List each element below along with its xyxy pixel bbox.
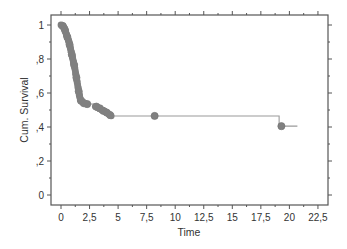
censored-marker <box>108 113 115 120</box>
censored-marker <box>278 123 285 130</box>
y-tick-label: ,4 <box>36 122 45 133</box>
x-axis-label: Time <box>178 226 201 238</box>
x-tick-label: 22,5 <box>308 212 328 223</box>
x-tick-label: 15 <box>227 212 239 223</box>
y-tick-label: 1 <box>38 20 44 31</box>
x-tick-label: 10 <box>170 212 182 223</box>
y-axis-label: Cum. Survival <box>18 77 30 142</box>
y-tick-label: 0 <box>38 190 44 201</box>
x-tick-label: 2,5 <box>83 212 97 223</box>
censored-marker <box>151 112 158 119</box>
x-tick-label: 0 <box>58 212 64 223</box>
x-tick-label: 5 <box>115 212 121 223</box>
y-tick-label: ,8 <box>36 54 45 65</box>
y-tick-label: ,6 <box>36 88 45 99</box>
x-tick-label: 20 <box>284 212 296 223</box>
x-tick-label: 7,5 <box>140 212 154 223</box>
censored-marker <box>83 101 90 108</box>
survival-chart: 0,2,4,6,81 02,557,51012,51517,52022,5 Ti… <box>0 0 347 249</box>
y-tick-label: ,2 <box>36 156 45 167</box>
x-tick-label: 17,5 <box>251 212 271 223</box>
x-tick-label: 12,5 <box>194 212 214 223</box>
